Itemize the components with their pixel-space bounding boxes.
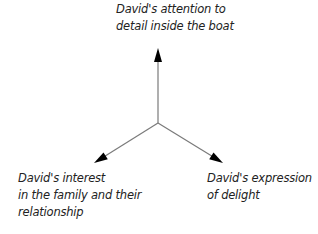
label-expression-of-delight: David's expression of delight: [207, 170, 312, 204]
label-line: relationship: [18, 204, 141, 221]
axis-top: [154, 48, 162, 123]
label-interest-in-family: David's interest in the family and their…: [18, 170, 141, 221]
arrowhead-down-right-icon: [209, 153, 223, 164]
label-line: in the family and their: [18, 187, 141, 204]
axis-left-line: [102, 123, 158, 158]
arrowhead-up-icon: [154, 48, 162, 62]
label-line: detail inside the boat: [116, 18, 234, 35]
arrowhead-down-left-icon: [94, 153, 108, 164]
label-line: of delight: [207, 187, 312, 204]
axis-right-line: [158, 123, 215, 158]
axis-right: [158, 123, 223, 163]
label-attention-to-detail: David's attention to detail inside the b…: [116, 1, 234, 35]
axis-left: [94, 123, 158, 163]
label-line: David's expression: [207, 170, 312, 187]
label-line: David's attention to: [116, 1, 234, 18]
label-line: David's interest: [18, 170, 141, 187]
